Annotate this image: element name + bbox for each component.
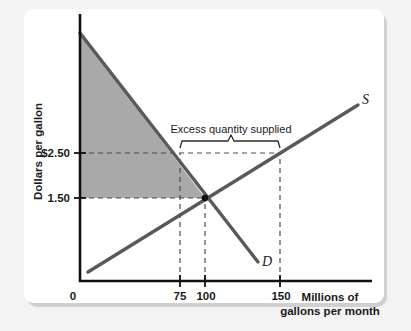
x-tick-label-75: 75 [174,290,187,302]
figure-root: $2.50 1.50 0 75 100 150 Dollars per gall… [0,0,411,331]
x-tick-label-0: 0 [70,290,76,302]
x-tick-label-150: 150 [271,290,290,302]
annotation-excess-quantity-supplied: Excess quantity supplied [170,123,291,135]
demand-curve-label: D [261,254,272,269]
x-axis-title-line2: gallons per month [280,305,380,317]
supply-demand-chart: $2.50 1.50 0 75 100 150 Dollars per gall… [0,0,411,331]
y-tick-label-150: 1.50 [48,192,70,204]
x-axis-title-line1: Millions of [302,291,359,303]
y-tick-label-250: $2.50 [41,147,70,159]
equilibrium-point-marker [202,195,209,202]
y-axis-title: Dollars per gallon [32,103,44,200]
x-tick-label-100: 100 [196,290,215,302]
supply-curve-label: S [362,92,369,107]
chart-panel [24,9,384,303]
